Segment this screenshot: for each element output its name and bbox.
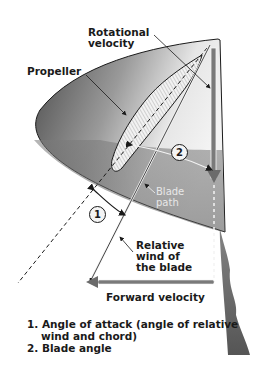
legend: 1. Angle of attack (angle of relative wi… — [27, 318, 238, 354]
legend-item-1-line-2: wind and chord) — [27, 330, 238, 342]
blade-path-label: Blade path — [156, 186, 184, 208]
rotational-velocity-line-2: velocity — [88, 38, 149, 49]
blade-path-line-2: path — [156, 197, 184, 208]
blade-path-line-1: Blade — [156, 186, 184, 197]
legend-item-1-line-1: 1. Angle of attack (angle of relative — [27, 318, 238, 330]
angle-2-marker: 2 — [171, 144, 188, 161]
forward-velocity-label: Forward velocity — [106, 292, 205, 303]
propeller-label: Propeller — [27, 66, 81, 77]
relative-wind-label: Relative wind of the blade — [136, 240, 192, 273]
legend-item-2: 2. Blade angle — [27, 342, 238, 354]
angle-1-marker: 1 — [89, 206, 106, 223]
rotational-velocity-label: Rotational velocity — [88, 27, 149, 49]
relative-wind-line-3: the blade — [136, 262, 192, 273]
